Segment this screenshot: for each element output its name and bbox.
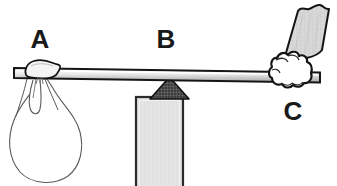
- diagram-canvas: A B C: [0, 0, 337, 186]
- cloth-knot-shape: [25, 60, 60, 78]
- label-b: B: [157, 24, 176, 54]
- cloth-knot: [25, 60, 60, 84]
- hanging-sack: [10, 78, 82, 182]
- sleeve-shape: [286, 5, 329, 59]
- shirt-sleeve: [286, 5, 329, 59]
- support-block-body: [136, 97, 183, 186]
- support-block: [136, 97, 183, 186]
- label-c: C: [284, 96, 303, 126]
- sack-body-outline: [10, 79, 82, 182]
- fist-gripping-bar: [269, 52, 312, 88]
- physics-lever-diagram: A B C: [0, 0, 337, 186]
- label-a: A: [31, 24, 50, 54]
